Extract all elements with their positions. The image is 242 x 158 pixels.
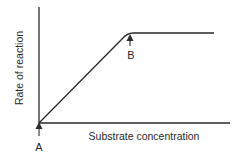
arrow-b <box>127 34 134 46</box>
x-axis-label: Substrate concentration <box>89 130 200 142</box>
y-axis-label: Rate of reaction <box>13 31 25 105</box>
arrow-a <box>36 122 43 136</box>
marker-label-a: A <box>35 141 43 153</box>
marker-label-b: B <box>127 49 134 61</box>
rate-curve <box>39 33 214 123</box>
chart: A B Substrate concentration Rate of reac… <box>0 0 242 158</box>
